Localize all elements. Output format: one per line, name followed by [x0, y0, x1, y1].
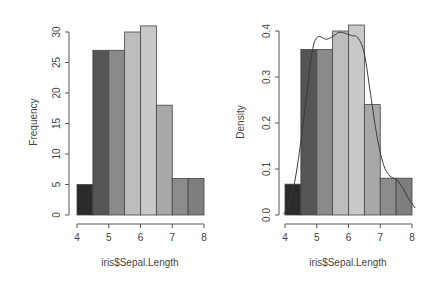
chart-canvas: 051015202530 45678 Frequency iris$Sepal.…: [0, 0, 442, 284]
histogram-bar: [380, 178, 396, 215]
histogram-bar: [93, 50, 109, 215]
y-tick-label: 0.0: [261, 208, 272, 222]
x-tick-label: 5: [106, 232, 112, 243]
x-tick-label: 8: [409, 232, 415, 243]
y-tick-label: 20: [51, 87, 62, 99]
x-tick-label: 7: [377, 232, 383, 243]
y-tick-label: 5: [51, 181, 62, 187]
y-axis-title: Density: [235, 105, 246, 138]
y-tick-label: 0.4: [261, 24, 272, 38]
histogram-bar: [317, 49, 333, 215]
x-axis: [77, 224, 204, 228]
y-tick-label: 30: [51, 26, 62, 38]
y-tick-label: 15: [51, 118, 62, 130]
frequency-histogram: 051015202530 45678 Frequency iris$Sepal.…: [28, 26, 207, 268]
histogram-bars: [77, 26, 204, 215]
x-axis: [285, 224, 412, 228]
histogram-bar: [141, 26, 157, 215]
x-tick-label: 5: [314, 232, 320, 243]
y-tick-labels: 0.00.10.20.30.4: [261, 24, 272, 222]
y-tick-label: 0: [51, 212, 62, 218]
x-tick-label: 4: [74, 232, 80, 243]
x-tick-label: 8: [201, 232, 207, 243]
histogram-bar: [188, 178, 204, 215]
histogram-bar: [77, 185, 93, 216]
x-tick-label: 6: [346, 232, 352, 243]
y-axis: [275, 31, 279, 215]
histogram-bar: [172, 178, 188, 215]
histogram-bar: [125, 32, 141, 215]
histogram-bar: [109, 50, 125, 215]
y-axis: [65, 32, 69, 215]
x-tick-label: 6: [138, 232, 144, 243]
x-axis-title: iris$Sepal.Length: [101, 257, 178, 268]
histogram-bar: [364, 105, 380, 215]
x-tick-label: 4: [282, 232, 288, 243]
histogram-bar: [333, 31, 349, 215]
y-tick-label: 0.2: [261, 116, 272, 130]
x-tick-label: 7: [169, 232, 175, 243]
y-tick-label: 0.1: [261, 162, 272, 176]
x-tick-labels: 45678: [282, 232, 415, 243]
density-histogram: 0.00.10.20.30.4 45678 Density iris$Sepal…: [235, 24, 415, 268]
histogram-bar: [349, 25, 365, 215]
x-tick-labels: 45678: [74, 232, 207, 243]
y-tick-label: 0.3: [261, 70, 272, 84]
x-axis-title: iris$Sepal.Length: [309, 257, 386, 268]
y-tick-label: 10: [51, 148, 62, 160]
y-tick-labels: 051015202530: [51, 26, 62, 218]
y-axis-title: Frequency: [28, 98, 39, 145]
histogram-bar: [396, 178, 412, 215]
y-tick-label: 25: [51, 57, 62, 69]
histogram-bar: [156, 105, 172, 215]
